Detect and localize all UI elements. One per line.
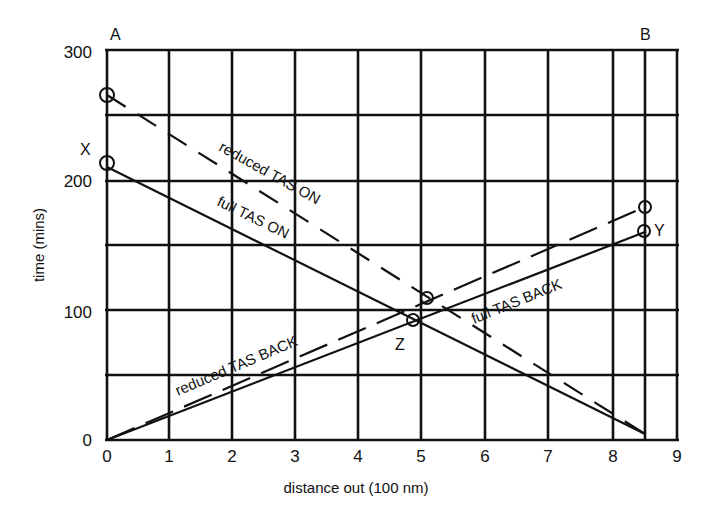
- label-x: X: [80, 141, 91, 158]
- y-tick-100: 100: [64, 303, 92, 322]
- chart: 300 200 100 0 0 1 2 3 4 5 6 7 8 9 distan…: [0, 0, 704, 516]
- y-tick-300: 300: [64, 43, 92, 62]
- label-z: Z: [395, 336, 405, 353]
- x-tick-2: 2: [227, 447, 236, 466]
- x-tick-1: 1: [164, 447, 173, 466]
- x-tick-7: 7: [543, 447, 552, 466]
- y-tick-200: 200: [64, 172, 92, 191]
- label-a: A: [110, 26, 121, 43]
- x-tick-4: 4: [353, 447, 362, 466]
- x-tick-5: 5: [416, 447, 425, 466]
- x-axis-label: distance out (100 nm): [283, 479, 428, 496]
- series-full-tas-back: [107, 232, 645, 440]
- x-tick-0: 0: [102, 447, 111, 466]
- label-full-tas-on: full TAS ON: [215, 192, 292, 241]
- x-tick-9: 9: [672, 447, 681, 466]
- y-axis-label: time (mins): [30, 208, 47, 282]
- y-tick-0: 0: [83, 431, 92, 450]
- x-tick-8: 8: [608, 447, 617, 466]
- x-tick-3: 3: [290, 447, 299, 466]
- label-b: B: [640, 26, 651, 43]
- x-tick-6: 6: [480, 447, 489, 466]
- series-reduced-tas-back: [107, 207, 645, 440]
- label-y: Y: [654, 222, 665, 239]
